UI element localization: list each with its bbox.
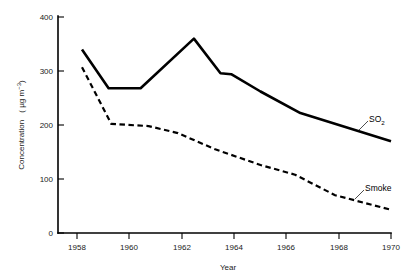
chart-axes — [58, 16, 391, 239]
series-label-smoke: Smoke — [365, 183, 392, 193]
series-annotation-smoke: Smoke — [355, 183, 392, 199]
y-axis-tick-labels: 400 300 200 100 0 — [40, 13, 54, 238]
svg-text:Concentration ( µg m−3: Concentration ( µg m−3) — [16, 80, 26, 170]
y-tick-label-300: 300 — [40, 67, 54, 76]
x-tick-label-1966: 1966 — [277, 243, 295, 252]
x-axis-tick-labels: 1958 1960 1962 1964 1966 1968 1970 — [68, 243, 400, 252]
x-tick-label-1962: 1962 — [173, 243, 191, 252]
y-axis-title-main: Concentration — [17, 120, 26, 170]
so2-smoke-concentration-line-chart: 400 300 200 100 0 1958 1960 1962 1964 19… — [0, 0, 420, 279]
x-tick-label-1970: 1970 — [382, 243, 400, 252]
smoke-leader-line — [355, 190, 364, 199]
x-tick-label-1958: 1958 — [68, 243, 86, 252]
y-tick-label-0: 0 — [49, 229, 54, 238]
y-tick-label-100: 100 — [40, 175, 54, 184]
y-tick-label-400: 400 — [40, 13, 54, 22]
x-tick-label-1964: 1964 — [225, 243, 243, 252]
x-axis-title: Year — [220, 263, 237, 272]
y-axis-title-close: ) — [17, 80, 26, 83]
y-axis-ticks — [58, 17, 64, 233]
x-tick-label-1960: 1960 — [120, 243, 138, 252]
y-tick-label-200: 200 — [40, 121, 54, 130]
so2-leader-line — [357, 121, 368, 132]
y-axis-title-units: ( µg m — [17, 89, 26, 112]
series-label-so2-subscript: 2 — [381, 119, 385, 126]
series-line-so2 — [82, 39, 391, 142]
series-annotation-so2: SO2 — [357, 114, 385, 132]
y-axis-title: Concentration ( µg m−3) — [16, 80, 26, 170]
series-label-so2-text: SO — [369, 114, 382, 124]
x-axis-ticks — [77, 233, 391, 239]
x-tick-label-1968: 1968 — [330, 243, 348, 252]
series-label-so2: SO2 — [369, 114, 385, 126]
chart-figure: 400 300 200 100 0 1958 1960 1962 1964 19… — [0, 0, 420, 279]
